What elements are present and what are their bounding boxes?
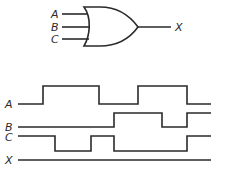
waveform-label-c: C: [5, 131, 13, 144]
waveform-a: [18, 86, 211, 104]
gate-input-label-c: C: [51, 33, 59, 46]
waveform-label-x: X: [4, 154, 13, 167]
gate-input-label-a: A: [50, 8, 59, 21]
waveform-b: [18, 113, 211, 127]
or-gate: [62, 7, 171, 46]
gate-output-label-x: X: [174, 21, 183, 34]
or-gate-body: [84, 7, 138, 46]
timing-waveforms: [18, 86, 211, 160]
waveform-c: [18, 136, 211, 151]
or-gate-timing-diagram: A B C X A B C X: [0, 0, 229, 169]
waveform-label-a: A: [4, 98, 13, 111]
